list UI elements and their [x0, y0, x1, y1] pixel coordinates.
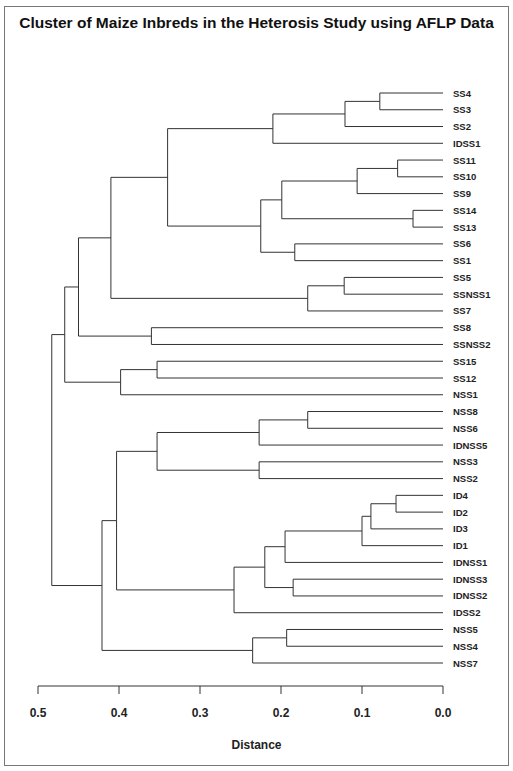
- leaf-label: SS15: [453, 356, 477, 367]
- leaf-label: SS8: [453, 322, 471, 333]
- leaf-label: NSS3: [453, 456, 478, 467]
- leaf-label: IDNSS1: [453, 557, 488, 568]
- leaf-label: SS10: [453, 171, 476, 182]
- leaf-label: SS5: [453, 272, 472, 283]
- dendrogram-plot: SS4SS3SS2IDSS1SS11SS10SS9SS14SS13SS6SS1S…: [0, 0, 513, 771]
- x-axis-label: Distance: [0, 738, 513, 752]
- leaf-label: ID4: [453, 490, 469, 501]
- x-tick-label: 0.1: [354, 706, 371, 720]
- leaf-label: SS1: [453, 255, 472, 266]
- leaf-label: NSS8: [453, 406, 478, 417]
- leaf-label: IDSS1: [453, 138, 481, 149]
- leaf-label: IDSS2: [453, 607, 480, 618]
- leaf-label: NSS5: [453, 624, 479, 635]
- leaf-label: ID2: [453, 507, 468, 518]
- leaf-label: ID1: [453, 540, 469, 551]
- leaf-label: SS4: [453, 88, 472, 99]
- leaf-label: SSNSS2: [453, 339, 491, 350]
- leaf-label: SS11: [453, 155, 476, 166]
- x-tick-label: 0.3: [192, 706, 209, 720]
- leaf-label: NSS4: [453, 641, 479, 652]
- leaf-label: IDNSS2: [453, 590, 487, 601]
- leaf-label: NSS7: [453, 658, 478, 669]
- leaf-label: IDNSS3: [453, 574, 487, 585]
- leaf-label: IDNSS5: [453, 440, 488, 451]
- leaf-label: SS7: [453, 305, 471, 316]
- leaf-label: SS3: [453, 104, 471, 115]
- leaf-label: NSS2: [453, 473, 478, 484]
- leaf-label: NSS1: [453, 389, 479, 400]
- leaf-label: SS6: [453, 238, 471, 249]
- leaf-label: ID3: [453, 523, 468, 534]
- leaf-label: SSNSS1: [453, 289, 491, 300]
- leaf-label: SS2: [453, 121, 471, 132]
- leaf-label: SS9: [453, 188, 471, 199]
- x-tick-label: 0.5: [30, 706, 47, 720]
- x-tick-label: 0.4: [111, 706, 128, 720]
- x-tick-label: 0.0: [435, 706, 452, 720]
- x-tick-label: 0.2: [273, 706, 290, 720]
- leaf-label: SS14: [453, 205, 477, 216]
- leaf-label: NSS6: [453, 423, 478, 434]
- leaf-label: SS12: [453, 373, 476, 384]
- leaf-label: SS13: [453, 222, 476, 233]
